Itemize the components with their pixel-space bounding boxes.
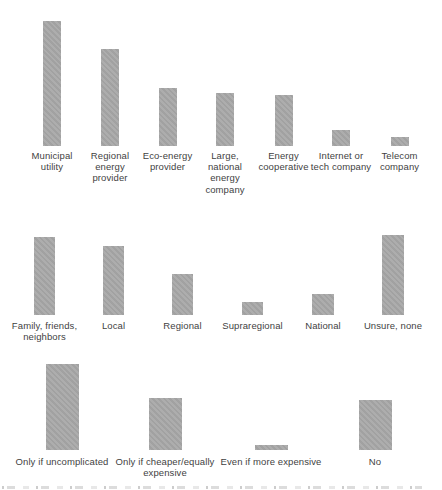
bar-row3-1 — [46, 364, 79, 450]
category-label: Unsure, none — [364, 320, 422, 331]
bar-row3-2 — [149, 398, 182, 450]
category-label: Telecom company — [380, 150, 419, 172]
category-label: Supraregional — [222, 320, 282, 331]
bar-row1-6 — [332, 130, 350, 146]
category-label: Internet or tech company — [311, 150, 371, 172]
bar-row1-5 — [275, 95, 293, 146]
category-label: Large, national energy company — [205, 150, 244, 195]
bar-row3-4 — [359, 400, 392, 450]
bar-row2-6 — [382, 235, 404, 315]
bar-row2-2 — [103, 246, 125, 315]
category-label: Energy cooperative — [258, 150, 308, 172]
bar-row1-1 — [43, 21, 61, 146]
bar-row2-5 — [312, 294, 334, 315]
category-label: Regional — [163, 320, 201, 331]
category-label: Even if more expensive — [221, 456, 322, 467]
bar-row2-1 — [34, 237, 56, 315]
category-label: National — [305, 320, 341, 331]
category-label: Only if uncomplicated — [16, 456, 109, 467]
bar-row2-3 — [172, 274, 194, 315]
bar-row1-2 — [101, 49, 119, 146]
category-label: No — [369, 456, 381, 467]
clipped-caption-fragments — [2, 486, 422, 489]
bar-chart-figure: Municipal utilityRegional energy provide… — [0, 0, 442, 490]
bar-row1-7 — [391, 137, 409, 146]
bar-row3-3 — [255, 445, 288, 450]
category-label: Regional energy provider — [91, 150, 129, 184]
category-label: Eco-energy provider — [143, 150, 193, 172]
category-label: Family, friends, neighbors — [12, 320, 77, 342]
bar-row2-4 — [242, 302, 264, 315]
bar-row1-3 — [159, 88, 177, 146]
bar-row1-4 — [216, 93, 234, 146]
category-label: Municipal utility — [31, 150, 72, 172]
category-label: Only if cheaper/equally expensive — [116, 456, 215, 478]
category-label: Local — [102, 320, 125, 331]
